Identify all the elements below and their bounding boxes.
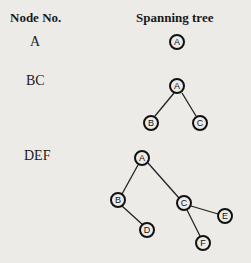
svg-text:B: B <box>148 118 154 128</box>
tree-bc: A B C <box>144 79 207 130</box>
node-a: A <box>135 151 149 165</box>
edge-a-b <box>155 93 174 116</box>
node-e: E <box>218 209 232 223</box>
svg-text:E: E <box>222 211 228 221</box>
edge-b-d <box>122 206 143 225</box>
tree-a: A <box>170 35 184 49</box>
node-f: F <box>196 236 210 250</box>
svg-text:A: A <box>174 37 180 47</box>
node-c: C <box>177 196 191 210</box>
svg-text:B: B <box>115 195 121 205</box>
node-a: A <box>170 79 184 93</box>
svg-text:D: D <box>144 225 151 235</box>
node-a: A <box>170 35 184 49</box>
edge-c-e <box>191 206 218 214</box>
svg-text:F: F <box>200 238 206 248</box>
node-d: D <box>140 223 154 237</box>
svg-text:A: A <box>139 153 145 163</box>
svg-text:C: C <box>197 118 204 128</box>
edge-a-c <box>182 93 196 116</box>
spanning-tree-diagram: A A B C A B <box>0 0 251 263</box>
tree-def: A B C D E F <box>111 151 232 250</box>
svg-text:A: A <box>174 81 180 91</box>
edge-c-f <box>187 210 200 236</box>
node-c: C <box>193 116 207 130</box>
node-b: B <box>111 193 125 207</box>
edge-a-c <box>148 163 179 198</box>
node-b: B <box>144 116 158 130</box>
svg-text:C: C <box>181 198 188 208</box>
edge-a-b <box>122 165 138 194</box>
